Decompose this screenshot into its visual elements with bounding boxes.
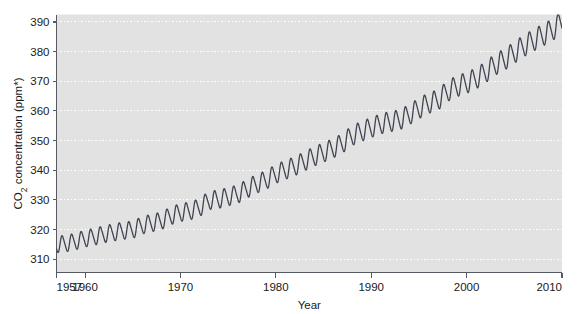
- y-tick-label: 340: [30, 164, 49, 176]
- y-tick-label: 390: [30, 16, 49, 28]
- co2-concentration-chart: 3103203303403503603703803901957196019701…: [0, 0, 582, 314]
- x-tick-label: 1980: [263, 281, 289, 293]
- y-tick-label: 330: [30, 194, 49, 206]
- x-tick-label: 1960: [72, 281, 98, 293]
- y-tick-label: 350: [30, 135, 49, 147]
- y-tick-label: 360: [30, 105, 49, 117]
- y-tick-label: 320: [30, 224, 49, 236]
- x-tick-label: 1990: [358, 281, 384, 293]
- y-tick-label: 370: [30, 75, 49, 87]
- x-tick-label: 2010: [536, 281, 562, 293]
- x-axis-title: Year: [298, 299, 321, 311]
- chart-svg: 3103203303403503603703803901957196019701…: [0, 0, 582, 314]
- x-tick-label: 1970: [168, 281, 194, 293]
- x-tick-label: 2000: [454, 281, 480, 293]
- y-tick-label: 310: [30, 253, 49, 265]
- y-tick-label: 380: [30, 46, 49, 58]
